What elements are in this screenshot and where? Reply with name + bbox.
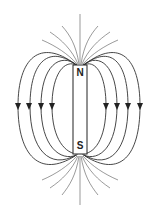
arrow-down-icon (125, 103, 131, 110)
arrow-down-icon (114, 103, 120, 110)
arrow-down-icon (137, 103, 143, 110)
south-pole-label: S (73, 140, 87, 151)
arrow-down-icon (15, 103, 21, 110)
arrow-down-icon (26, 103, 32, 110)
magnetic-field-diagram (0, 0, 152, 215)
arrow-down-icon (103, 103, 109, 110)
north-pole-label: N (73, 67, 87, 78)
arrow-down-icon (38, 103, 44, 110)
arrow-down-icon (49, 103, 55, 110)
